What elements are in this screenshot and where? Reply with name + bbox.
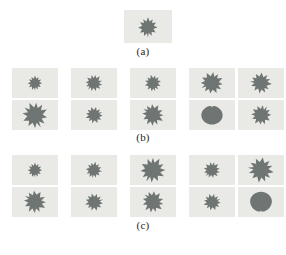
- maple-leaf-icon: [12, 68, 58, 98]
- leaf-tile: [130, 155, 176, 185]
- leaf-tile: [71, 68, 117, 98]
- maple-leaf-icon: [71, 187, 117, 217]
- panel-caption: (a): [0, 45, 286, 57]
- maple-leaf-icon: [130, 155, 176, 185]
- panel-caption: (c): [0, 219, 286, 231]
- panel-caption: (b): [0, 131, 286, 143]
- leaf-tile: [12, 100, 58, 130]
- maple-leaf-icon: [189, 155, 235, 185]
- leaf-tile: [124, 10, 172, 43]
- leaf-tile: [238, 68, 284, 98]
- maple-leaf-icon: [12, 100, 58, 130]
- maple-leaf-icon: [189, 68, 235, 98]
- leaf-tile: [238, 100, 284, 130]
- panel-c: (c): [0, 149, 286, 235]
- maple-leaf-icon: [130, 100, 176, 130]
- leaf-tile: [130, 187, 176, 217]
- leaf-tile: [71, 155, 117, 185]
- leaf-tile: [71, 187, 117, 217]
- maple-leaf-icon: [71, 68, 117, 98]
- leaf-tile: [12, 155, 58, 185]
- maple-leaf-icon: [238, 68, 284, 98]
- maple-leaf-icon: [130, 187, 176, 217]
- leaf-blob-icon: [238, 187, 284, 217]
- panel-a: (a): [0, 0, 286, 60]
- leaf-tile: [189, 68, 235, 98]
- leaf-tile: [71, 100, 117, 130]
- maple-leaf-icon: [12, 187, 58, 217]
- leaf-tile: [130, 68, 176, 98]
- maple-leaf-icon: [71, 100, 117, 130]
- leaf-blob-icon: [189, 100, 235, 130]
- maple-leaf-icon: [12, 155, 58, 185]
- leaf-tile: [189, 187, 235, 217]
- leaf-tile: [12, 68, 58, 98]
- leaf-tile: [189, 155, 235, 185]
- leaf-tile: [189, 100, 235, 130]
- maple-leaf-icon: [71, 155, 117, 185]
- leaf-tile: [238, 187, 284, 217]
- maple-leaf-icon: [238, 155, 284, 185]
- panel-b: (b): [0, 62, 286, 146]
- leaf-shape-figure: (a): [0, 0, 286, 255]
- maple-leaf-icon: [189, 187, 235, 217]
- leaf-tile: [130, 100, 176, 130]
- maple-leaf-icon: [130, 68, 176, 98]
- maple-leaf-icon: [124, 10, 172, 43]
- leaf-tile: [238, 155, 284, 185]
- leaf-tile: [12, 187, 58, 217]
- maple-leaf-icon: [238, 100, 284, 130]
